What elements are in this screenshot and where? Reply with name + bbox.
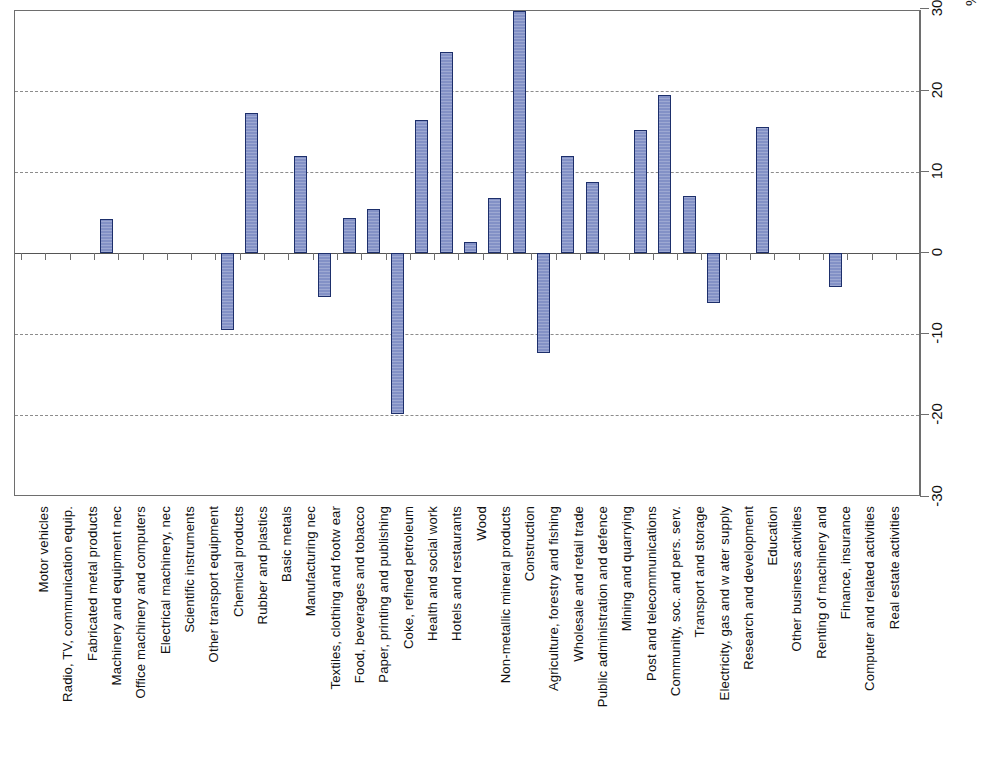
bar [440, 52, 453, 253]
x-axis-tick [483, 253, 484, 260]
category-label: Office machinery and computers [134, 506, 147, 699]
category-label: Agriculture, forestry and fishing [547, 506, 560, 691]
bar [658, 95, 671, 253]
category-label: Paper, printing and publishing [377, 506, 390, 683]
category-label: Manufacturing nec [304, 506, 317, 616]
x-axis-tick [507, 253, 508, 260]
category-label: Hotels and restaurants [450, 506, 463, 641]
category-labels-group: Motor vehiclesRadio, TV, communication e… [0, 496, 984, 770]
gridline-10 [15, 172, 919, 173]
x-axis-tick [118, 253, 119, 260]
bar [100, 219, 113, 253]
category-label: Motor vehicles [37, 506, 50, 592]
x-axis-tick [823, 253, 824, 260]
x-axis-tick [458, 253, 459, 260]
x-axis-tick [580, 253, 581, 260]
x-axis-tick [701, 253, 702, 260]
x-axis-tick [337, 253, 338, 260]
category-label: Radio, TV, communication equip. [61, 506, 74, 702]
category-label: Mining and quarrying [620, 506, 633, 631]
x-axis-tick [361, 253, 362, 260]
category-label: Real estate activities [888, 506, 901, 629]
x-axis-tick [847, 253, 848, 260]
gridline--20 [15, 415, 919, 416]
y-axis-tick-label: 20 [928, 70, 945, 110]
x-axis-tick [556, 253, 557, 260]
bar [537, 253, 550, 353]
x-axis-tick [313, 253, 314, 260]
bar [586, 182, 599, 253]
category-label: Other transport equipment [207, 506, 220, 662]
category-label: Public administration and defence [596, 506, 609, 707]
category-label: Community, soc. and pers. serv. [669, 506, 682, 696]
x-axis-tick [750, 253, 751, 260]
zero-axis-line [15, 253, 919, 254]
plot-area [14, 10, 920, 496]
bar [513, 11, 526, 253]
bar [294, 156, 307, 253]
category-label: Renting of machinery and [815, 506, 828, 659]
x-axis-tick [726, 253, 727, 260]
x-axis-tick [896, 253, 897, 260]
y-axis-tick-label: 10 [928, 151, 945, 191]
x-axis-tick [774, 253, 775, 260]
category-label: Non-metallic mineral products [499, 506, 512, 683]
category-label: Electricity, gas and w ater supply [718, 506, 731, 700]
y-axis-tick-label: -10 [928, 313, 945, 353]
x-axis-tick [215, 253, 216, 260]
category-label: Rubber and plastics [256, 506, 269, 624]
category-label: Transport and storage [693, 506, 706, 637]
bar [367, 209, 380, 253]
category-label: Construction [523, 506, 536, 581]
bar [683, 196, 696, 253]
bar [245, 113, 258, 253]
category-label: Health and social work [426, 506, 439, 641]
gridline-20 [15, 91, 919, 92]
x-axis-tick [799, 253, 800, 260]
bar [391, 253, 404, 414]
category-label: Chemical products [232, 506, 245, 617]
bar [634, 130, 647, 253]
bar [561, 156, 574, 253]
category-label: Wood [475, 506, 488, 541]
x-axis-tick [240, 253, 241, 260]
category-label: Electrical machinery, nec [159, 506, 172, 654]
category-label: Post and telecommunications [645, 506, 658, 681]
x-axis-tick [21, 253, 22, 260]
category-label: Computer and related activities [863, 506, 876, 691]
category-label: Coke, refined petroleum [402, 506, 415, 649]
x-axis-tick [872, 253, 873, 260]
category-label: Textiles, clothing and footw ear [329, 506, 342, 690]
x-axis-tick [70, 253, 71, 260]
x-axis-tick [167, 253, 168, 260]
category-label: Wholesale and retail trade [572, 506, 585, 662]
category-label: Education [766, 506, 779, 566]
category-label: Scientific instruments [183, 506, 196, 633]
x-axis-tick [191, 253, 192, 260]
x-axis-tick [45, 253, 46, 260]
bar [318, 253, 331, 297]
category-label: Research and development [742, 506, 755, 670]
x-axis-tick [143, 253, 144, 260]
x-axis-tick [434, 253, 435, 260]
x-axis-tick [264, 253, 265, 260]
x-axis-tick [604, 253, 605, 260]
category-label: Food, beverages and tobacco [353, 506, 366, 683]
y-axis-unit-label: % [962, 0, 979, 6]
bar [464, 242, 477, 253]
x-axis-tick [653, 253, 654, 260]
x-axis-tick [629, 253, 630, 260]
x-axis-tick [386, 253, 387, 260]
category-label: Fabricated metal products [86, 506, 99, 661]
y-axis-tick-label: 30 [928, 0, 945, 28]
y-axis-tick-label: -20 [928, 394, 945, 434]
x-axis-tick [531, 253, 532, 260]
bar [756, 127, 769, 253]
y-axis-tick-label: 0 [928, 232, 945, 272]
bar-chart-figure: 3020100-10-20-30 % Motor vehiclesRadio, … [0, 0, 984, 770]
gridline--10 [15, 334, 919, 335]
y-axis-line [920, 10, 921, 496]
category-label: Finance, insurance [839, 506, 852, 619]
bar [221, 253, 234, 330]
bar [829, 253, 842, 287]
